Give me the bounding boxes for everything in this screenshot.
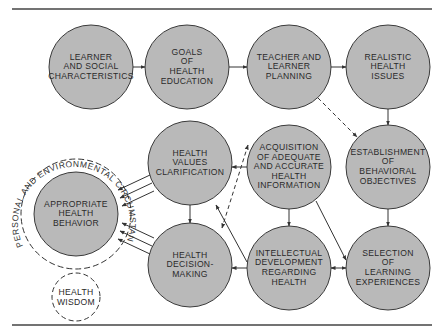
health-education-flow-diagram: PERSONAL AND ENVIRONMENTAL CIRCUMSTANCES <box>0 0 443 334</box>
label-issues: REALISTIC HEALTH ISSUES <box>346 25 430 109</box>
label-planning: TEACHER AND LEARNER PLANNING <box>247 25 331 109</box>
label-acquisition: ACQUISITION OF ADEQUATE AND ACCURATE HEA… <box>247 125 331 209</box>
label-objectives: ESTABLISHMENT OF BEHAVIORAL OBJECTIVES <box>346 125 430 209</box>
label-health-wisdom: HEALTH WISDOM <box>52 283 100 313</box>
label-selection: SELECTION OF LEARNING EXPERIENCES <box>346 226 430 310</box>
label-goals: GOALS OF HEALTH EDUCATION <box>145 25 229 109</box>
label-decision: HEALTH DECISION- MAKING <box>148 223 232 307</box>
label-learner: LEARNER AND SOCIAL CHARACTERISTICS <box>49 25 133 109</box>
label-values: HEALTH VALUES CLARIFICATION <box>148 121 232 205</box>
label-behavior: APPROPRIATE HEALTH BEHAVIOR <box>34 172 118 256</box>
label-intellectual: INTELLECTUAL DEVELOPMENT REGARDING HEALT… <box>247 226 331 310</box>
